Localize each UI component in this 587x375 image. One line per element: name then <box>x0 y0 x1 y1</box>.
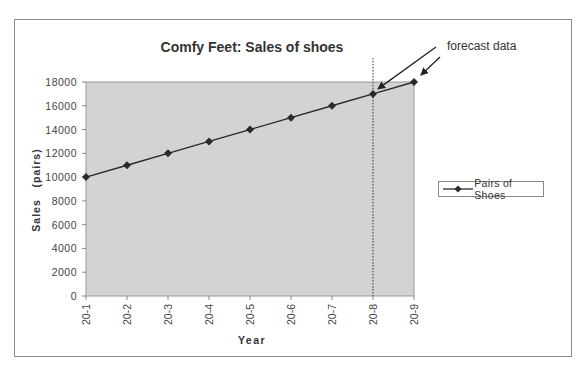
y-axis-title: Sales (pairs) <box>30 148 42 231</box>
y-tick-label: 4000 <box>52 242 77 254</box>
x-tick-label: 20-5 <box>244 304 256 325</box>
plot-area <box>86 82 414 296</box>
x-tick-label: 20-3 <box>162 304 174 325</box>
x-tick-label: 20-4 <box>203 304 215 325</box>
x-tick-label: 20-2 <box>121 304 133 325</box>
legend-label: Pairs of Shoes <box>474 177 543 201</box>
legend-marker-icon <box>442 181 472 197</box>
y-tick-label: 6000 <box>52 219 77 231</box>
x-tick-label: 20-8 <box>367 304 379 325</box>
arrow-icon <box>421 57 440 75</box>
y-tick-label: 8000 <box>52 195 77 207</box>
legend: Pairs of Shoes <box>438 181 544 197</box>
x-tick-label: 20-9 <box>408 304 420 325</box>
y-tick-label: 10000 <box>45 171 77 183</box>
y-tick-label: 12000 <box>45 147 77 159</box>
y-tick-label: 18000 <box>45 76 77 88</box>
annotation-label: forecast data <box>447 39 517 53</box>
x-axis: 20-120-220-320-420-520-620-720-820-9 <box>80 296 420 325</box>
x-tick-label: 20-6 <box>285 304 297 325</box>
x-tick-label: 20-7 <box>326 304 338 325</box>
y-tick-label: 14000 <box>45 124 77 136</box>
y-tick-label: 2000 <box>52 266 77 278</box>
x-tick-label: 20-1 <box>80 304 92 325</box>
chart-title: Comfy Feet: Sales of shoes <box>161 39 344 55</box>
y-tick-label: 16000 <box>45 100 77 112</box>
y-axis: 0200040006000800010000120001400016000180… <box>45 76 86 302</box>
x-axis-title: Year <box>238 334 266 346</box>
y-tick-label: 0 <box>71 290 77 302</box>
